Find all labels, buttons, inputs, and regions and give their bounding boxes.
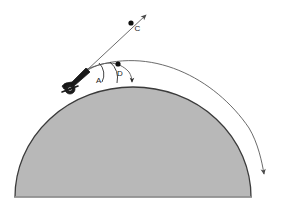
planet-group bbox=[15, 87, 251, 197]
point-d-label: D bbox=[117, 69, 123, 78]
point-d-dot bbox=[115, 61, 120, 66]
angle-a-label: A bbox=[96, 76, 102, 85]
figure-canvas: C D A bbox=[0, 0, 283, 209]
planet-dome bbox=[15, 87, 251, 197]
diagram-svg: C D A bbox=[0, 0, 283, 209]
point-c-dot bbox=[128, 20, 133, 25]
cannon bbox=[62, 68, 90, 94]
point-c-label: C bbox=[135, 24, 141, 33]
